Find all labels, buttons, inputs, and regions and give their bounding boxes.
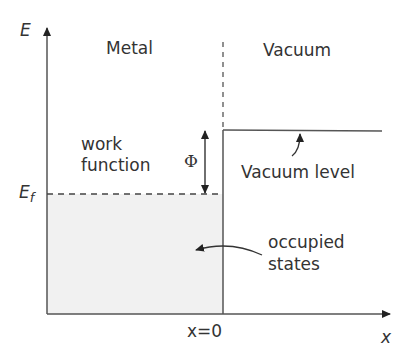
phi-symbol: Φ: [184, 151, 198, 171]
vacuum-level-label: Vacuum level: [241, 162, 355, 182]
energy-diagram: E Metal Vacuum work function Φ Vacuum le…: [0, 0, 416, 363]
vacuum-level-pointer-arrow: [292, 134, 300, 156]
metal-region-label: Metal: [106, 38, 153, 58]
origin-label: x=0: [187, 321, 222, 341]
vacuum-region-label: Vacuum: [263, 40, 331, 60]
fermi-level-label: Ef: [19, 182, 37, 205]
work-function-label-line1: work: [81, 134, 122, 154]
vacuum-level-line: [223, 130, 382, 131]
energy-axis-label: E: [20, 20, 31, 40]
occupied-states-label-line1: occupied: [268, 232, 345, 252]
occupied-states-label-line2: states: [268, 254, 320, 274]
occupied-states-region: [47, 194, 223, 314]
work-function-label-line2: function: [81, 155, 150, 175]
position-axis-label: x: [380, 327, 392, 347]
